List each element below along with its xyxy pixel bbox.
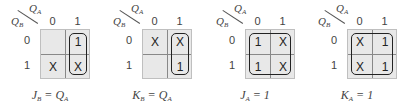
- col-header-0: 0: [40, 15, 65, 27]
- grouping-loop: [69, 33, 87, 75]
- col-variable-label: QA: [29, 2, 41, 16]
- row-header-0: 0: [126, 34, 132, 46]
- row-header-1: 1: [126, 59, 132, 71]
- cell-r0-c0: [41, 30, 65, 54]
- formula: KA = 1: [307, 88, 407, 103]
- row-header-0: 0: [24, 34, 30, 46]
- kmap-grid: 1X1X: [245, 29, 295, 79]
- grouping-loop: [249, 33, 291, 75]
- formula: KB = QA: [102, 88, 202, 103]
- kmap-grid: XX1: [142, 29, 192, 79]
- col-header-0: 0: [142, 15, 167, 27]
- row-header-0: 0: [331, 34, 337, 46]
- grouping-loop: [351, 33, 393, 75]
- col-header-1: 1: [372, 15, 397, 27]
- col-header-1: 1: [167, 15, 192, 27]
- cell-r1-c0: [143, 55, 167, 79]
- row-variable-label: QB: [113, 15, 125, 29]
- row-variable-label: QB: [11, 15, 23, 29]
- kmap-3: QAQB01011X1XJA = 1: [205, 0, 305, 110]
- row-header-1: 1: [229, 59, 235, 71]
- row-variable-label: QB: [216, 15, 228, 29]
- col-variable-label: QA: [336, 2, 348, 16]
- col-header-1: 1: [270, 15, 295, 27]
- cell-r0-c0: X: [143, 30, 167, 54]
- kmap-grid: 1XX: [40, 29, 90, 79]
- kmap-2: QAQB0101XX1KB = QA: [102, 0, 202, 110]
- col-variable-label: QA: [131, 2, 143, 16]
- row-variable-label: QB: [318, 15, 330, 29]
- row-header-1: 1: [331, 59, 337, 71]
- col-header-1: 1: [65, 15, 90, 27]
- row-header-1: 1: [24, 59, 30, 71]
- col-header-0: 0: [347, 15, 372, 27]
- col-header-0: 0: [245, 15, 270, 27]
- cell-r1-c0: X: [41, 55, 65, 79]
- kmap-grid: X1X1: [347, 29, 397, 79]
- kmap-4: QAQB0101X1X1KA = 1: [307, 0, 407, 110]
- col-variable-label: QA: [234, 2, 246, 16]
- kmap-1: QAQB01011XXJB = QA: [0, 0, 100, 110]
- formula: JA = 1: [205, 88, 305, 103]
- formula: JB = QA: [0, 88, 100, 103]
- row-header-0: 0: [229, 34, 235, 46]
- grouping-loop: [171, 33, 189, 75]
